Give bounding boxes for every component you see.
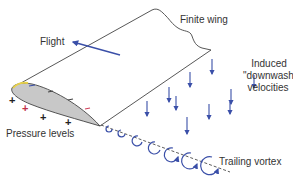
trailing-vortex-label: Trailing vortex	[219, 156, 281, 167]
flight-label: Flight	[40, 36, 64, 47]
finite-wing-label: Finite wing	[180, 14, 228, 25]
plus-sign: +	[22, 102, 28, 114]
flight-arrow	[73, 42, 120, 55]
finite-wing-diagram: + + + +	[0, 0, 293, 178]
trailing-vortex	[101, 125, 230, 175]
plus-sign: +	[40, 111, 46, 123]
pressure-levels-label: Pressure levels	[6, 128, 74, 139]
induced-label-2: "downwash"	[243, 70, 293, 81]
plus-sign: +	[9, 94, 15, 106]
downwash-arrows	[147, 59, 254, 134]
induced-label-1: Induced	[246, 58, 292, 69]
plus-sign: +	[65, 116, 71, 128]
induced-label-3: velocities	[243, 82, 293, 93]
